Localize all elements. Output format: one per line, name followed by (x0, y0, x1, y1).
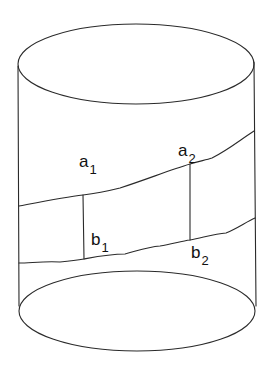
label-b2: b2 (191, 243, 209, 268)
cylinder-left-wall (18, 66, 19, 306)
upper-curve-a (19, 131, 254, 206)
cylinder-top-ellipse (18, 24, 254, 104)
lower-curve-b (19, 218, 255, 263)
segment-a1-b1 (83, 195, 84, 259)
label-a2: a2 (178, 141, 196, 166)
label-a1: a1 (79, 152, 97, 177)
cylinder-diagram: a1 a2 b1 b2 (0, 0, 273, 367)
cylinder-bottom-ellipse (19, 271, 255, 351)
label-b1: b1 (91, 230, 109, 255)
cylinder-right-wall (254, 62, 256, 306)
